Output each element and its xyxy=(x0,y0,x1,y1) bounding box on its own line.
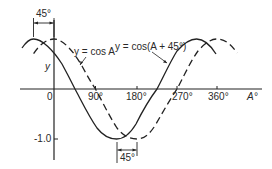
x-tick-label-360: 360° xyxy=(208,91,229,102)
x-tick-label-0: 0 xyxy=(47,91,53,102)
dimension-bottom-45: 45° xyxy=(117,142,137,163)
x-tick-label-90: 90° xyxy=(88,91,103,102)
dimension-bottom-label: 45° xyxy=(120,152,135,163)
dimension-top-45: 45° xyxy=(34,8,55,37)
x-axis-label: A° xyxy=(246,91,258,102)
x-tick-label-270: 270° xyxy=(172,91,193,102)
legend-cos-a-plus-45: y = cos(A + 45°) xyxy=(115,41,186,52)
chart: 45° 45° y = cos A y = cos(A + 45°) y A° … xyxy=(0,0,272,169)
y-tick-label-neg1: -1.0 xyxy=(34,133,52,144)
y-axis-label: y xyxy=(44,61,51,72)
legend-cos-a: y = cos A xyxy=(74,46,115,57)
x-tick-label-180: 180° xyxy=(126,91,147,102)
dimension-top-label: 45° xyxy=(36,8,51,19)
